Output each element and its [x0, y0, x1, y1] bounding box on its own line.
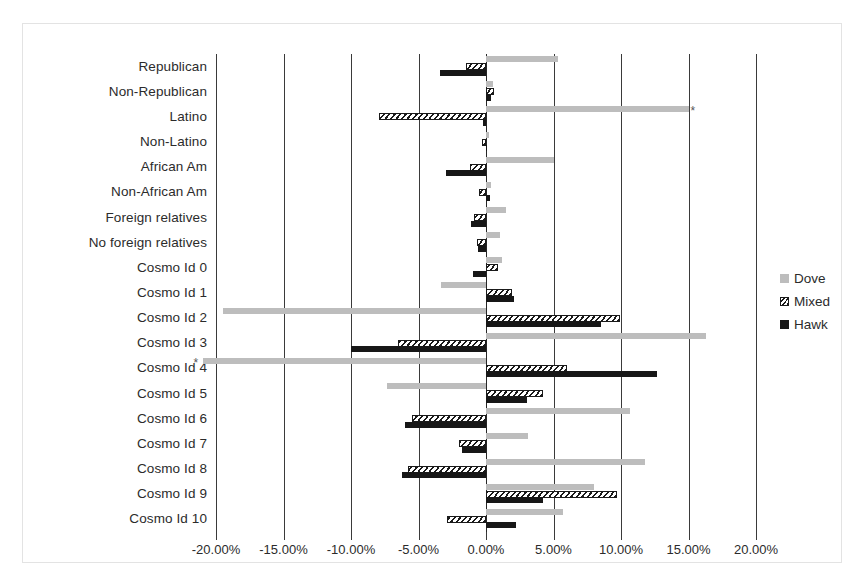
bar-hawk [405, 422, 486, 428]
bar-mixed [486, 264, 498, 271]
bar-dove [486, 408, 630, 414]
category-label: Cosmo Id 5 [137, 387, 207, 401]
axis-tick-label: 10.00% [599, 542, 643, 557]
category-label: Cosmo Id 6 [137, 412, 207, 426]
category-label: Cosmo Id 7 [137, 437, 207, 451]
bar-hawk [486, 321, 601, 327]
bar-hawk [462, 447, 486, 453]
axis-tick [621, 532, 622, 540]
bar-row: Cosmo Id 10 [216, 507, 756, 532]
bar-hawk [446, 170, 487, 176]
chart-legend: DoveMixedHawk [780, 267, 866, 336]
bar-row: Cosmo Id 2 [216, 306, 756, 331]
category-label: Latino [170, 110, 207, 124]
bar-dove [486, 81, 493, 87]
axis-tick-label: 0.00% [468, 542, 505, 557]
bar-dove [486, 257, 502, 263]
bar-row: Cosmo Id 3 [216, 331, 756, 356]
bar-hawk [471, 221, 486, 227]
bar-dove [486, 207, 506, 213]
significance-marker: * [691, 105, 696, 117]
category-label: Cosmo Id 2 [137, 311, 207, 325]
category-label: Republican [138, 60, 207, 74]
bar-dove [486, 232, 500, 238]
category-label: Cosmo Id 1 [137, 286, 207, 300]
bar-dove [486, 333, 706, 339]
bar-row: Cosmo Id 7 [216, 431, 756, 456]
category-label: Cosmo Id 3 [137, 337, 207, 351]
axis-tick-label: 5.00% [535, 542, 572, 557]
bar-row: Republican [216, 54, 756, 79]
category-label: Non-African Am [111, 186, 207, 200]
legend-item-mixed[interactable]: Mixed [780, 290, 866, 313]
bar-row: Cosmo Id 8 [216, 457, 756, 482]
legend-label: Dove [794, 271, 826, 286]
category-label: Foreign relatives [106, 211, 208, 225]
axis-tick [216, 532, 217, 540]
bar-dove [441, 282, 486, 288]
bar-dove [486, 484, 594, 490]
axis-tick [486, 532, 487, 540]
axis-tick [419, 532, 420, 540]
bar-row: African Am [216, 155, 756, 180]
bar-row: Foreign relatives [216, 205, 756, 230]
axis-tick [554, 532, 555, 540]
axis-tick-label: -15.00% [259, 542, 307, 557]
bar-row: Non-African Am [216, 180, 756, 205]
bar-hawk [486, 371, 657, 377]
bar-dove [486, 56, 558, 62]
category-label: Cosmo Id 8 [137, 462, 207, 476]
category-label: No foreign relatives [89, 236, 207, 250]
legend-item-dove[interactable]: Dove [780, 267, 866, 290]
axis-tick [351, 532, 352, 540]
bar-hawk [473, 271, 487, 277]
bar-row: Latino* [216, 104, 756, 129]
legend-label: Mixed [794, 294, 830, 309]
category-label: African Am [141, 160, 207, 174]
bar-row: Non-Republican [216, 79, 756, 104]
axis-tick-label: -20.00% [192, 542, 240, 557]
axis-tick-label: -10.00% [327, 542, 375, 557]
bar-hawk [486, 195, 490, 201]
chart-frame: RepublicanNon-RepublicanLatino*Non-Latin… [22, 23, 842, 563]
axis-tick-label: -5.00% [398, 542, 439, 557]
bar-dove [223, 308, 486, 314]
bar-dove [203, 358, 487, 364]
axis-tick [284, 532, 285, 540]
axis-tick [689, 532, 690, 540]
category-label: Non-Republican [109, 85, 207, 99]
bar-hawk [486, 522, 516, 528]
category-label: Cosmo Id 10 [129, 513, 207, 527]
bar-hawk [486, 145, 487, 151]
category-label: Cosmo Id 0 [137, 261, 207, 275]
bar-row: Cosmo Id 1 [216, 280, 756, 305]
bar-dove [486, 433, 528, 439]
bar-hawk [486, 497, 543, 503]
bar-dove [486, 459, 645, 465]
bar-hawk [486, 95, 491, 101]
legend-label: Hawk [794, 317, 828, 332]
category-label: Non-Latino [140, 135, 207, 149]
bar-hawk [402, 472, 486, 478]
legend-swatch-mixed-icon [780, 297, 789, 306]
bar-row: No foreign relatives [216, 230, 756, 255]
x-axis: -20.00%-15.00%-10.00%-5.00%0.00%5.00%10.… [216, 532, 756, 566]
bar-mixed [447, 516, 486, 523]
bar-row: Cosmo Id 6 [216, 406, 756, 431]
bar-mixed [379, 113, 486, 120]
bar-dove [486, 106, 689, 112]
gridline [756, 54, 757, 532]
bar-hawk [478, 246, 486, 252]
bar-dove [486, 509, 563, 515]
axis-tick [756, 532, 757, 540]
category-label: Cosmo Id 9 [137, 488, 207, 502]
bar-row: Cosmo Id 9 [216, 482, 756, 507]
bar-hawk [486, 296, 514, 302]
plot-area: RepublicanNon-RepublicanLatino*Non-Latin… [216, 54, 756, 532]
legend-item-hawk[interactable]: Hawk [780, 313, 866, 336]
bar-row: Cosmo Id 0 [216, 255, 756, 280]
bar-dove [387, 383, 486, 389]
axis-tick-label: 15.00% [666, 542, 710, 557]
bar-dove [486, 132, 489, 138]
bar-row: Cosmo Id 5 [216, 381, 756, 406]
